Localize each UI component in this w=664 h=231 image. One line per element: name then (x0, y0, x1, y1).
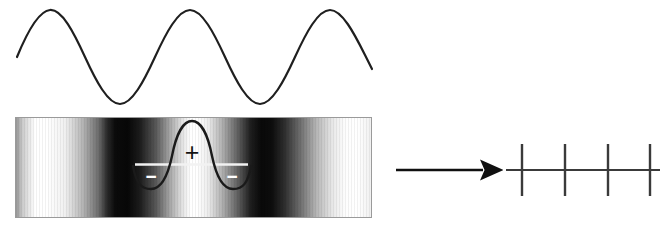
figure-canvas: + − − (0, 0, 664, 231)
minus-sign-right-label: − (226, 166, 237, 187)
comb-panel (506, 144, 660, 196)
figure-root: + − − (0, 0, 664, 231)
plus-sign-label: + (185, 138, 200, 166)
sine-wave-panel (17, 10, 372, 104)
minus-sign-left-label: − (145, 166, 156, 187)
sine-wave-curve (17, 10, 372, 104)
fringe-band-panel: + − − (15, 117, 372, 218)
fringe-band-scanline-texture (15, 117, 372, 218)
